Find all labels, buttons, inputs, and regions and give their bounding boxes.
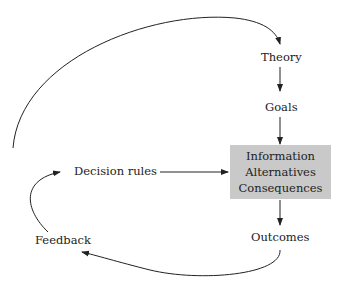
- arrow-feedback-to-rules: [30, 172, 60, 232]
- arrow-feedback-to-theory: [13, 17, 280, 148]
- decision-cycle-diagram: Theory Goals Information Alternatives Co…: [0, 0, 338, 291]
- node-feedback: Feedback: [35, 235, 91, 247]
- arrow-outcomes-to-feedback: [82, 250, 280, 276]
- node-information-box: Information Alternatives Consequences: [230, 145, 331, 199]
- node-decision-rules: Decision rules: [74, 166, 157, 178]
- box-line-information: Information: [246, 148, 315, 164]
- box-line-alternatives: Alternatives: [245, 164, 316, 180]
- box-line-consequences: Consequences: [239, 180, 323, 196]
- node-goals: Goals: [265, 102, 298, 114]
- node-outcomes: Outcomes: [251, 232, 309, 244]
- node-theory: Theory: [261, 52, 302, 64]
